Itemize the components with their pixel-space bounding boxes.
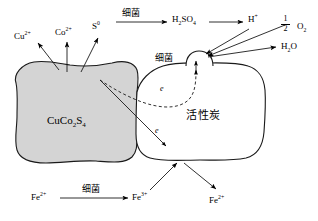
label-co-ion: Co2+	[55, 28, 72, 37]
oxygen-reduction-arrows	[206, 25, 285, 57]
label-oxygen-coefficient: 1 2	[281, 15, 290, 33]
label-elemental-sulfur: S0	[92, 22, 100, 31]
label-iron-three: Fe3+	[132, 193, 147, 202]
mechanism-diagram: Cu2+ Co2+ S0 细菌 H2SO4 H+ 1 2 O2 H2O 细菌 C…	[0, 0, 318, 221]
label-bacteria-top: 细菌	[122, 9, 140, 18]
diagram-canvas	[0, 0, 318, 221]
label-bacteria-bottom: 细菌	[82, 185, 100, 194]
label-sulfide-particle: CuCo2S4	[47, 115, 86, 126]
label-water: H2O	[281, 42, 297, 51]
label-electron-upper: e	[160, 85, 164, 93]
label-iron-two-left: Fe2+	[31, 193, 46, 202]
arrow-carbon-to-fe2	[184, 163, 216, 189]
label-cu-ion: Cu2+	[14, 32, 31, 41]
label-bacteria-middle: 细菌	[155, 54, 173, 63]
arrow-proton-to-site	[206, 29, 249, 54]
bacterium-bump-shape	[186, 51, 213, 66]
label-electron-lower: e	[155, 127, 159, 135]
label-iron-two-right: Fe2+	[209, 196, 224, 205]
label-activated-carbon: 活性炭	[186, 110, 221, 121]
arrow-fe3-to-carbon	[150, 163, 177, 190]
label-proton: H+	[248, 15, 258, 24]
label-oxygen: O2	[297, 22, 306, 31]
sulfide-particle-shape	[15, 61, 138, 163]
label-sulfuric-acid: H2SO4	[172, 15, 196, 24]
